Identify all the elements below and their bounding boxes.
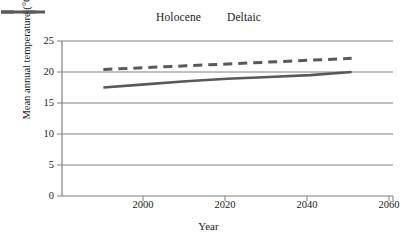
x-axis-ticks (143, 196, 393, 201)
chart-container: Holocene Deltaic Mean annual temperature… (0, 0, 417, 243)
y-tick-label-15: 15 (28, 98, 54, 109)
y-axis-ticks (57, 41, 62, 196)
y-tick-label-25: 25 (28, 36, 54, 47)
series-line-deltaic (103, 58, 351, 69)
y-tick-label-10: 10 (28, 129, 54, 140)
x-tick-label-2000: 2000 (119, 200, 167, 211)
y-tick-label-20: 20 (28, 67, 54, 78)
x-tick-label-2040: 2040 (283, 200, 331, 211)
x-axis-title: Year (0, 220, 417, 232)
x-tick-label-2060: 2060 (365, 200, 413, 211)
x-tick-label-2020: 2020 (201, 200, 249, 211)
series-line-holocene (103, 72, 351, 88)
y-tick-label-0: 0 (28, 191, 54, 202)
y-tick-label-5: 5 (28, 160, 54, 171)
